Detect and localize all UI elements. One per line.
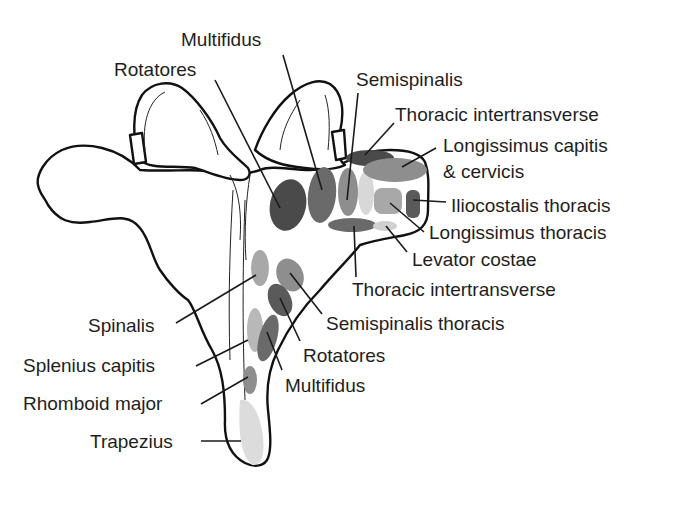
levator-costae-attachment — [373, 221, 397, 231]
label-spinalis: Spinalis — [88, 316, 155, 335]
rhomboid-major-attachment — [243, 366, 257, 394]
label-splenius-capitis: Splenius capitis — [23, 356, 155, 375]
label-iliocostalis-thoracis: Iliocostalis thoracis — [451, 196, 610, 215]
thoracic-intertransverse-attachment-bottom — [328, 218, 376, 232]
label-thoracic-intertransverse-top: Thoracic intertransverse — [395, 105, 599, 124]
label-trapezius: Trapezius — [90, 432, 173, 451]
left-articular-process — [134, 83, 249, 180]
label-rotatores-top: Rotatores — [114, 60, 196, 79]
right-articular-process — [255, 81, 345, 169]
label-levator-costae: Levator costae — [412, 250, 537, 269]
label-multifidus-bottom: Multifidus — [285, 376, 365, 395]
label-rotatores-bottom: Rotatores — [303, 346, 385, 365]
longissimus-capitis-attachment — [363, 158, 427, 182]
label-rhomboid-major: Rhomboid major — [23, 394, 162, 413]
label-semispinalis: Semispinalis — [356, 70, 463, 89]
label-longissimus-capitis-cervicis: Longissimus capitis & cervicis — [443, 133, 608, 185]
label-semispinalis-thoracis: Semispinalis thoracis — [326, 314, 504, 333]
iliocostalis-attachment — [406, 190, 420, 218]
left-process-tab — [130, 133, 146, 164]
label-longissimus-thoracis: Longissimus thoracis — [429, 223, 606, 242]
spinalis-attachment — [251, 250, 269, 286]
vertebra-muscle-attachment-diagram: Multifidus Rotatores Semispinalis Thorac… — [0, 0, 678, 507]
label-multifidus-top: Multifidus — [181, 30, 261, 49]
label-thoracic-intertransverse-bottom: Thoracic intertransverse — [352, 280, 556, 299]
